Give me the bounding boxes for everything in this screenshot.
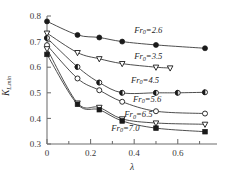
series-label-3: Fr0=5.6	[132, 94, 162, 105]
series-label-0: Fr0=2.6	[133, 25, 163, 36]
data-point-half-circle-fill	[203, 90, 206, 95]
series-label-value: =5.6	[145, 94, 162, 104]
x-axis-tick-labels: 00.20.40.6	[45, 148, 184, 158]
y-tick-label: 0.6	[30, 62, 42, 72]
x-tick-label: 0	[45, 148, 50, 158]
series-label-value: =4.5	[143, 75, 160, 85]
data-point-filled-circle	[120, 39, 125, 44]
series-label-value: =6.5	[136, 109, 153, 119]
data-point-filled-square	[97, 107, 102, 112]
data-point-half-circle-fill	[120, 90, 123, 95]
y-axis-tick-labels: 0.30.40.50.60.70.8	[30, 11, 42, 149]
series-label-2: Fr0=4.5	[130, 75, 160, 86]
data-point-half-circle-fill	[97, 80, 99, 85]
data-point-open-triangle	[202, 122, 208, 127]
series-label-value: =7.0	[123, 123, 140, 133]
series-label-value: =2.6	[146, 25, 163, 35]
data-point-filled-circle	[45, 19, 50, 24]
y-tick-label: 0.5	[30, 88, 42, 98]
data-point-open-circle	[97, 88, 102, 93]
series-curve-0	[47, 21, 205, 48]
series-label-value: =3.5	[146, 51, 163, 61]
data-point-half-circle-fill	[175, 90, 178, 95]
series-label-1: Fr0=3.5	[133, 51, 163, 62]
data-point-open-triangle	[167, 66, 173, 71]
series-label-4: Fr0=6.5	[123, 109, 153, 120]
y-axis-title: KL,min	[1, 76, 12, 97]
data-point-open-triangle	[44, 47, 50, 52]
data-point-half-circle-fill	[75, 64, 78, 69]
data-point-filled-circle	[75, 32, 80, 37]
y-axis-title-subscript: L,min	[6, 76, 12, 91]
x-tick-label: 0.6	[172, 148, 184, 158]
data-point-half-circle-fill	[45, 36, 47, 41]
svg-text:KL,min: KL,min	[1, 76, 12, 97]
series-label-5: Fr0=7.0	[110, 123, 140, 134]
x-tick-label: 0.4	[129, 148, 141, 158]
data-point-open-circle	[153, 109, 158, 114]
data-point-filled-square	[45, 52, 50, 57]
y-tick-label: 0.7	[30, 37, 42, 47]
chart-figure: 0.30.40.50.60.70.8 00.20.40.6 KL,min λ F…	[0, 0, 234, 181]
data-point-filled-square	[203, 129, 208, 134]
y-tick-label: 0.3	[30, 139, 42, 149]
data-point-open-circle	[75, 76, 80, 81]
series-curve-3	[47, 45, 205, 113]
data-point-filled-circle	[153, 42, 158, 47]
data-point-filled-circle	[97, 35, 102, 40]
x-axis-ticks	[47, 139, 200, 144]
y-tick-label: 0.8	[30, 11, 42, 21]
chart-plot-area: 0.30.40.50.60.70.8 00.20.40.6 KL,min λ F…	[0, 0, 234, 181]
data-point-open-circle	[203, 111, 208, 116]
data-point-open-circle	[120, 99, 125, 104]
y-tick-label: 0.4	[30, 114, 42, 124]
x-axis-title: λ	[129, 162, 134, 172]
data-point-filled-square	[154, 126, 159, 131]
x-tick-label: 0.2	[85, 148, 96, 158]
data-point-filled-square	[75, 102, 80, 107]
data-point-filled-circle	[203, 46, 208, 51]
